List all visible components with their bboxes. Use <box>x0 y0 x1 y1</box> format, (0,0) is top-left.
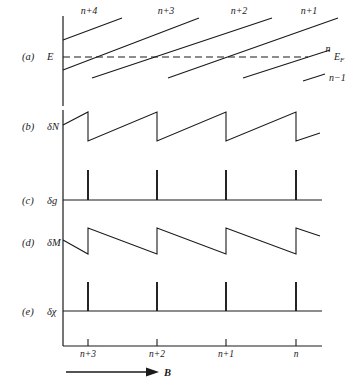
b-axis-tick-label-3: n+1 <box>218 349 234 359</box>
panel-e-quantity-label: δχ <box>47 306 57 317</box>
b-axis: n+3 n+2 n+1 n B <box>63 339 322 378</box>
fermi-energy-label: EF <box>333 51 345 64</box>
landau-label-n-plus-1: n+1 <box>301 5 318 16</box>
panel-a-quantity-label: E <box>46 51 54 62</box>
panel-a-energy-levels: n+4 n+3 n+2 n+1 n EF n−1 (a) E <box>22 5 346 106</box>
panel-b-quantity-label: δN <box>47 121 60 132</box>
b-axis-tick-label-4: n <box>294 349 299 359</box>
panel-d-inverse-sawtooth-curve <box>63 228 320 254</box>
panel-e-tag: (e) <box>22 306 34 318</box>
panel-c-quantity-label: δg <box>47 195 57 206</box>
b-axis-tick-label-1: n+3 <box>80 349 96 359</box>
landau-line-n-plus-4 <box>63 18 122 40</box>
panel-d-quantity-label: δM <box>47 237 62 248</box>
b-direction-arrow-head <box>146 368 159 377</box>
figure-container: n+4 n+3 n+2 n+1 n EF n−1 (a) E (b) δN <box>0 0 353 385</box>
landau-label-n-plus-2: n+2 <box>231 5 248 16</box>
dhva-oscillation-figure: n+4 n+3 n+2 n+1 n EF n−1 (a) E (b) δN <box>0 0 353 385</box>
landau-line-n-seg <box>243 50 330 78</box>
panel-a-tag: (a) <box>22 51 35 63</box>
panel-b-sawtooth-curve <box>63 112 320 141</box>
panel-d-tag: (d) <box>22 237 35 249</box>
landau-label-n: n <box>326 43 331 54</box>
panel-b-delta-n: (b) δN <box>22 110 320 165</box>
panel-d-delta-m: (d) δM <box>22 220 320 280</box>
panel-c-tag: (c) <box>22 195 34 207</box>
landau-line-n-minus-1-seg <box>303 74 325 81</box>
landau-label-n-plus-4: n+4 <box>81 5 98 16</box>
b-axis-label: B <box>163 367 171 378</box>
landau-label-n-minus-1: n−1 <box>329 72 346 83</box>
panel-b-tag: (b) <box>22 121 35 133</box>
panel-c-delta-g: (c) δg <box>22 165 322 220</box>
b-axis-tick-label-2: n+2 <box>149 349 165 359</box>
landau-line-n-plus-1-seg <box>168 18 338 78</box>
landau-label-n-plus-3: n+3 <box>158 5 175 16</box>
landau-line-n-plus-3-lower-seg <box>63 18 199 70</box>
panel-e-delta-chi: (e) δχ <box>22 280 322 346</box>
